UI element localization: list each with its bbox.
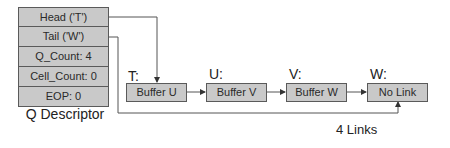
buffer-v-box: Buffer V — [206, 83, 267, 102]
descriptor-q-count-field: Q_Count: 4 — [18, 47, 109, 67]
buffer-u-box: Buffer U — [126, 83, 187, 102]
q-descriptor: Head ('T') Tail ('W') Q_Count: 4 Cell_Co… — [18, 7, 109, 107]
descriptor-title: Q Descriptor — [10, 106, 120, 122]
descriptor-eop-field: EOP: 0 — [18, 87, 109, 107]
buffer-address-w: W: — [370, 66, 387, 82]
buffer-address-t: T: — [128, 68, 139, 84]
no-link-box: No Link — [367, 83, 428, 102]
descriptor-tail-field: Tail ('W') — [18, 27, 109, 47]
buffer-address-u: U: — [209, 66, 223, 82]
buffer-address-v: V: — [289, 66, 302, 82]
descriptor-cell-count-field: Cell_Count: 0 — [18, 67, 109, 87]
descriptor-head-field: Head ('T') — [18, 7, 109, 27]
buffer-w-box: Buffer W — [286, 83, 347, 102]
links-caption: 4 Links — [336, 122, 377, 137]
